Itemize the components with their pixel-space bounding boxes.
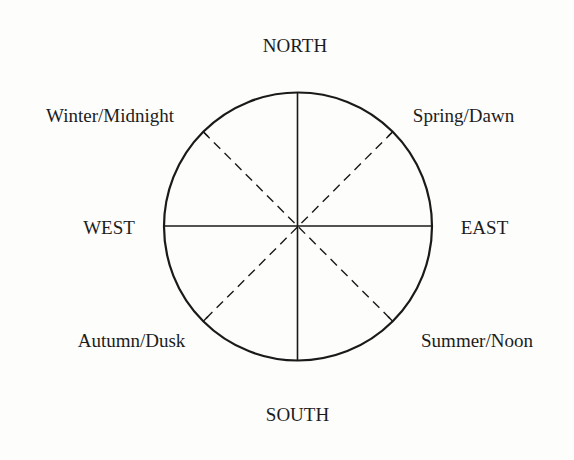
label-east: EAST [461, 217, 509, 238]
nw-tick [203, 132, 208, 137]
label-southwest: Autumn/Dusk [78, 330, 186, 351]
sw-tick [203, 317, 208, 322]
label-southeast: Summer/Noon [421, 330, 533, 351]
label-northwest: Winter/Midnight [46, 105, 175, 126]
label-northeast: Spring/Dawn [413, 105, 515, 126]
seasons-compass-diagram: NORTH SOUTH WEST EAST Winter/Midnight Sp… [0, 0, 574, 460]
label-west: WEST [83, 217, 135, 238]
label-north: NORTH [263, 35, 328, 56]
se-tick [388, 317, 393, 322]
ne-tick [388, 132, 393, 137]
label-south: SOUTH [266, 404, 330, 425]
